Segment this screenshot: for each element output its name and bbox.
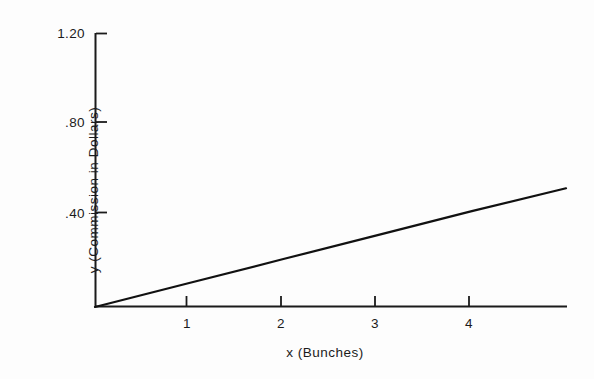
x-tick-label-1: 1 [183, 316, 191, 331]
data-line-commission [95, 188, 566, 307]
x-tick-label-3: 3 [371, 316, 379, 331]
y-tick-label-0-40: .40 [30, 206, 85, 221]
x-axis-title: x (Bunches) [0, 345, 594, 360]
x-axis-title-text: x (Bunches) [286, 345, 364, 360]
y-tick-label-1-20: 1.20 [30, 26, 85, 41]
chart-figure: 1.20 .80 .40 1 2 3 4 y (Commission in Do… [0, 0, 594, 379]
y-tick-label-0-80: .80 [30, 115, 85, 130]
x-tick-label-2: 2 [277, 316, 285, 331]
x-tick-label-4: 4 [465, 316, 473, 331]
y-axis-title: y (Commission in Dollars) [86, 106, 101, 272]
